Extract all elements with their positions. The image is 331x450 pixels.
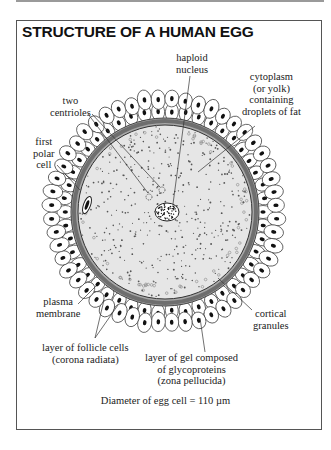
label-plasma-membrane: plasma membrane [36,296,80,319]
label-zona-pellucida: layer of gel composed of glycoproteins (… [145,352,238,387]
label-cytoplasm: cytoplasm (or yolk) containing droplets … [242,71,301,117]
label-cortical-granules: cortical granules [253,308,289,331]
label-first-polar-cell: first polar cell [33,136,55,171]
label-two-centrioles: two centrioles [50,95,91,118]
label-haploid-nucleus: haploid nucleus [176,52,208,75]
label-corona-radiata: layer of follicle cells (corona radiata) [42,342,129,365]
figure-caption: Diameter of egg cell = 110 µm [0,395,331,406]
